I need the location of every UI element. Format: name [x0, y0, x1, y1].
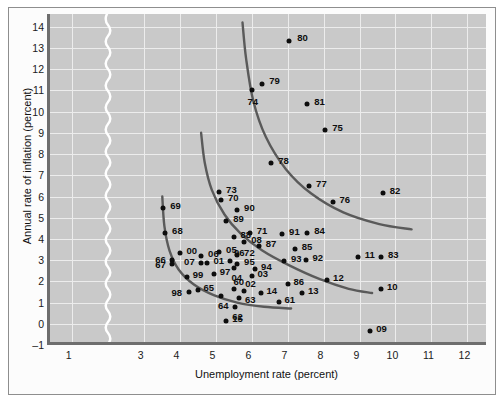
data-point-label: 83	[388, 248, 399, 259]
grid-line-horizontal	[50, 197, 486, 198]
data-point	[236, 296, 241, 301]
grid-line-horizontal	[50, 175, 486, 176]
grid-line-vertical	[72, 14, 73, 342]
x-axis-title: Unemployment rate (percent)	[47, 368, 486, 380]
y-tick-label: 7	[4, 169, 44, 181]
data-point-label: 07	[184, 256, 195, 267]
data-point	[224, 318, 229, 323]
x-tick-label: 1	[66, 349, 72, 361]
grid-line-vertical	[252, 14, 253, 342]
grid-line-horizontal	[50, 303, 486, 304]
y-tick-label: 0	[4, 318, 44, 330]
data-point-label: 65	[204, 281, 215, 292]
data-point	[224, 218, 229, 223]
data-point	[231, 286, 236, 291]
x-tick-label: 4	[174, 349, 180, 361]
data-point	[227, 259, 232, 264]
data-point	[161, 206, 166, 211]
data-point-label: 92	[313, 252, 324, 263]
data-point-label: 08	[251, 234, 262, 245]
data-point-label: 90	[244, 202, 255, 213]
data-point	[303, 258, 308, 263]
data-point-label: 00	[187, 244, 198, 255]
data-point-label: 99	[193, 269, 204, 280]
y-tick-label: 6	[4, 191, 44, 203]
x-tick-label: 5	[210, 349, 216, 361]
data-point-label: 09	[376, 323, 387, 334]
grid-line-horizontal	[50, 112, 486, 113]
data-point-label: 61	[285, 293, 296, 304]
data-point-label: 70	[228, 191, 239, 202]
data-point	[355, 254, 360, 259]
data-point	[379, 254, 384, 259]
x-tick-label: 12	[459, 349, 471, 361]
data-point-label: 91	[289, 225, 300, 236]
data-point-label: 77	[316, 177, 327, 188]
y-tick-label: 11	[4, 84, 44, 96]
y-tick-label: –1	[4, 339, 44, 351]
x-tick-label: 11	[423, 349, 434, 361]
data-point-label: 03	[258, 268, 269, 279]
data-point-label: 85	[302, 240, 313, 251]
grid-line-vertical	[395, 14, 396, 342]
data-point	[258, 291, 263, 296]
data-point-label: 76	[340, 193, 351, 204]
data-point-label: 89	[233, 212, 244, 223]
data-point-label: 86	[294, 275, 305, 286]
data-point	[380, 191, 385, 196]
data-point-label: 93	[291, 253, 302, 264]
data-point	[299, 291, 304, 296]
data-point-label: 74	[248, 96, 259, 107]
y-tick-label: 1	[4, 297, 44, 309]
x-axis-tick-labels: 13456789101112	[47, 349, 486, 365]
x-tick-label: 3	[138, 349, 144, 361]
data-point	[163, 230, 168, 235]
data-point	[280, 231, 285, 236]
data-point	[218, 294, 223, 299]
data-point-label: 13	[308, 285, 319, 296]
data-point	[249, 88, 254, 93]
data-point	[233, 304, 238, 309]
data-point-label: 79	[269, 75, 280, 86]
grid-line-horizontal	[50, 324, 486, 325]
x-tick-label: 9	[354, 349, 360, 361]
x-tick-label: 10	[387, 349, 399, 361]
plot-area: 8079748175787782767370699089687184918808…	[47, 14, 486, 345]
grid-line-horizontal	[50, 218, 486, 219]
data-point-label: 96	[234, 247, 245, 258]
data-point	[199, 253, 204, 258]
grid-line-horizontal	[50, 48, 486, 49]
data-point-label: 12	[333, 272, 344, 283]
x-tick-label: 7	[282, 349, 288, 361]
data-point	[287, 38, 292, 43]
data-point-label: 63	[245, 294, 256, 305]
data-point-label: 01	[214, 255, 225, 266]
data-point	[170, 262, 175, 267]
data-point	[368, 329, 373, 334]
y-tick-label: 10	[4, 106, 44, 118]
x-tick-label: 8	[318, 349, 324, 361]
data-point	[379, 286, 384, 291]
y-tick-label: 2	[4, 275, 44, 287]
data-point-label: 15	[232, 312, 243, 323]
data-point-label: 14	[267, 285, 278, 296]
data-point-label: 80	[297, 31, 308, 42]
grid-line-horizontal	[50, 90, 486, 91]
grid-line-horizontal	[50, 281, 486, 282]
data-point-label: 10	[387, 280, 398, 291]
data-point-label: 97	[220, 265, 231, 276]
data-point-label: 69	[170, 200, 181, 211]
y-tick-label: 9	[4, 127, 44, 139]
long-run-1970s-curve	[243, 23, 412, 230]
data-point	[231, 234, 236, 239]
data-point-label: 88	[241, 228, 252, 239]
data-point	[242, 240, 247, 245]
data-point	[204, 261, 209, 266]
data-point	[218, 197, 223, 202]
grid-line-vertical	[216, 14, 217, 342]
data-point-label: 82	[390, 185, 401, 196]
data-point	[211, 271, 216, 276]
data-point	[217, 190, 222, 195]
data-point	[260, 82, 265, 87]
data-point	[305, 102, 310, 107]
